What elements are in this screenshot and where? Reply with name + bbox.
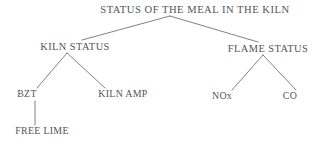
edge-root-to-kiln-status [82,16,170,40]
node-root-label: STATUS OF THE MEAL IN THE KILN [100,4,289,15]
node-kiln-status: KILN STATUS [40,41,110,52]
node-kiln-status-label: KILN STATUS [40,41,110,52]
node-free-lime-label: FREE LIME [15,125,68,136]
node-kiln-amp: KILN AMP [98,88,147,99]
node-nox-label: NOx [212,90,232,101]
node-bzt-label: BZT [17,88,37,99]
node-nox: NOx [212,90,232,101]
edge-kiln-status-to-kiln-amp [67,53,105,88]
node-co-label: CO [283,90,297,101]
edge-kiln-status-to-bzt [37,53,67,88]
edge-flame-status-to-co [263,55,296,90]
node-kiln-amp-label: KILN AMP [98,88,147,99]
node-free-lime: FREE LIME [15,125,68,136]
edge-flame-status-to-nox [232,55,263,90]
node-bzt: BZT [17,88,37,99]
node-flame-status-label: FLAME STATUS [228,43,309,54]
node-flame-status: FLAME STATUS [228,43,309,54]
diagram-canvas: STATUS OF THE MEAL IN THE KILN KILN STAT… [0,0,325,149]
node-co: CO [283,90,297,101]
edge-root-to-flame-status [170,16,258,42]
node-root: STATUS OF THE MEAL IN THE KILN [100,4,289,15]
